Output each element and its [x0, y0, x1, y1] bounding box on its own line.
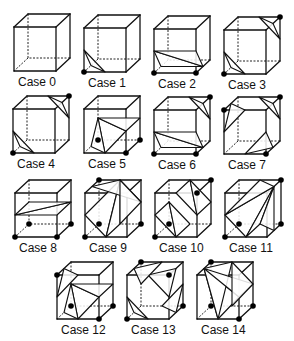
cube-edge	[126, 140, 140, 153]
marked-vertex-icon	[123, 150, 129, 156]
marked-vertex-icon	[166, 272, 172, 278]
cube-edge	[99, 306, 113, 319]
hidden-edge	[224, 141, 238, 154]
marked-vertex-icon	[151, 151, 157, 157]
marked-vertex-icon	[68, 303, 74, 309]
cube-edge	[99, 262, 113, 275]
marked-vertex-icon	[193, 70, 199, 76]
marked-vertex-icon	[222, 234, 228, 240]
marked-vertex-icon	[138, 259, 144, 265]
marked-vertex-icon	[166, 221, 172, 227]
cube-edge	[126, 15, 140, 28]
cube-edge	[196, 16, 210, 29]
case-label: Case 0	[18, 75, 56, 89]
case-3-cube: Case 3	[221, 14, 283, 92]
cube-edge	[15, 180, 29, 193]
marked-vertex-icon	[96, 177, 102, 183]
case-label: Case 5	[88, 157, 126, 171]
cube-edge	[13, 96, 27, 109]
case-5-cube: Case 5	[84, 96, 143, 171]
case-0-cube: Case 0	[14, 14, 70, 89]
marked-vertex-icon	[68, 221, 74, 227]
case-label: Case 3	[228, 78, 266, 92]
cube-edge	[126, 59, 140, 72]
marked-vertex-icon	[124, 316, 130, 322]
case-7-cube: Case 7	[221, 94, 283, 172]
marked-vertex-icon	[180, 303, 186, 309]
cube-edge	[57, 224, 71, 237]
cube-edge	[225, 180, 239, 193]
cube-edge	[84, 15, 98, 28]
marked-vertex-icon	[10, 150, 16, 156]
marked-vertex-icon	[250, 303, 256, 309]
marked-vertex-icon	[236, 316, 242, 322]
marked-vertex-icon	[110, 303, 116, 309]
case-2-cube: Case 2	[151, 16, 210, 91]
marked-vertex-icon	[54, 272, 60, 278]
case-label: Case 14	[201, 323, 246, 337]
isosurface-triangle	[232, 262, 253, 306]
cube-edge	[55, 140, 69, 153]
cube-edge	[14, 14, 28, 27]
case-label: Case 2	[158, 77, 196, 91]
marked-vertex-icon	[54, 234, 60, 240]
marked-vertex-icon	[277, 14, 283, 20]
case-label: Case 8	[19, 241, 57, 255]
case-6-cube: Case 6	[151, 94, 213, 172]
case-8-cube: Case 8	[12, 180, 74, 255]
marked-vertex-icon	[96, 316, 102, 322]
marked-vertex-icon	[221, 71, 227, 77]
case-label: Case 9	[89, 241, 127, 255]
hidden-edge	[15, 224, 29, 237]
marked-vertex-icon	[12, 234, 18, 240]
hidden-edge	[14, 58, 28, 71]
marked-vertex-icon	[208, 259, 214, 265]
marked-vertex-icon	[208, 303, 214, 309]
marked-vertex-icon	[138, 221, 144, 227]
cube-edge	[266, 61, 280, 74]
case-9-cube: Case 9	[82, 177, 144, 255]
marked-vertex-icon	[26, 221, 32, 227]
marked-vertex-icon	[137, 137, 143, 143]
marked-vertex-icon	[278, 177, 284, 183]
cube-edge	[56, 58, 70, 71]
marked-vertex-icon	[207, 94, 213, 100]
cube-edge	[155, 180, 169, 193]
case-10-cube: Case 10	[152, 177, 214, 255]
cube-edge	[126, 96, 140, 109]
cube-edge	[154, 16, 168, 29]
marked-vertex-icon	[278, 221, 284, 227]
marked-vertex-icon	[263, 151, 269, 157]
cube-edge	[57, 180, 71, 193]
cube-edge	[224, 17, 238, 30]
marked-vertex-icon	[236, 221, 242, 227]
marked-vertex-icon	[81, 69, 87, 75]
cube-edge	[154, 97, 168, 110]
marked-vertex-icon	[277, 94, 283, 100]
cube-edge	[56, 14, 70, 27]
case-label: Case 7	[228, 158, 266, 172]
case-label: Case 10	[159, 241, 204, 255]
case-label: Case 12	[61, 323, 106, 337]
marked-vertex-icon	[66, 93, 72, 99]
case-14-cube: Case 14	[197, 259, 256, 337]
hidden-edge	[197, 306, 211, 319]
marked-vertex-icon	[152, 234, 158, 240]
marked-vertex-icon	[82, 234, 88, 240]
marked-vertex-icon	[95, 137, 101, 143]
case-13-cube: Case 13	[124, 259, 186, 337]
case-12-cube: Case 12	[54, 262, 116, 337]
case-label: Case 6	[158, 158, 196, 172]
marked-vertex-icon	[208, 177, 214, 183]
case-label: Case 13	[131, 323, 176, 337]
case-label: Case 11	[229, 241, 273, 255]
cube-edge	[84, 96, 98, 109]
cube-edge	[239, 306, 253, 319]
case-1-cube: Case 1	[81, 15, 140, 90]
marching-cubes-figure: Case 0Case 1Case 2Case 3Case 4Case 5Case…	[0, 0, 294, 341]
case-11-cube: Case 11	[222, 177, 284, 255]
case-label: Case 1	[88, 76, 126, 90]
marked-vertex-icon	[194, 190, 200, 196]
cube-edge	[197, 224, 211, 237]
marked-vertex-icon	[151, 70, 157, 76]
